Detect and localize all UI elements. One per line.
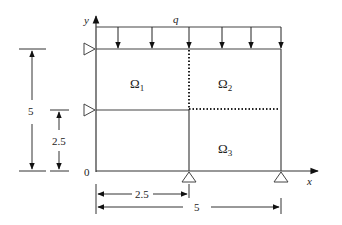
- dimension-width-total: 5: [98, 198, 281, 214]
- y-axis: y: [83, 14, 96, 172]
- interface-dotted: [189, 50, 280, 110]
- dimension-height-total: 5: [19, 49, 46, 171]
- roller-support-left-top: [84, 43, 95, 55]
- distributed-load: q: [96, 13, 281, 48]
- x-axis-label: x: [306, 175, 312, 187]
- origin-label: 0: [84, 166, 90, 178]
- dimension-width-total-label: 5: [194, 201, 200, 213]
- dimension-height-total-label: 5: [28, 105, 34, 117]
- roller-support-bottom-mid: [182, 172, 196, 182]
- load-label: q: [173, 13, 179, 25]
- roller-support-bottom-right: [274, 172, 288, 182]
- dimension-height-half: 2.5: [50, 110, 69, 171]
- dimension-height-half-label: 2.5: [52, 135, 66, 147]
- dimension-width-half-label: 2.5: [135, 188, 149, 200]
- dimension-width-half: 2.5: [96, 184, 189, 214]
- domain-diagram: y x 0 q Ω1 Ω2 Ω3: [0, 0, 342, 225]
- roller-support-left-mid: [84, 104, 95, 116]
- region-omega2-label: Ω2: [218, 76, 232, 93]
- y-axis-label: y: [83, 14, 89, 26]
- region-omega3-label: Ω3: [218, 141, 233, 158]
- region-omega1-label: Ω1: [130, 76, 144, 93]
